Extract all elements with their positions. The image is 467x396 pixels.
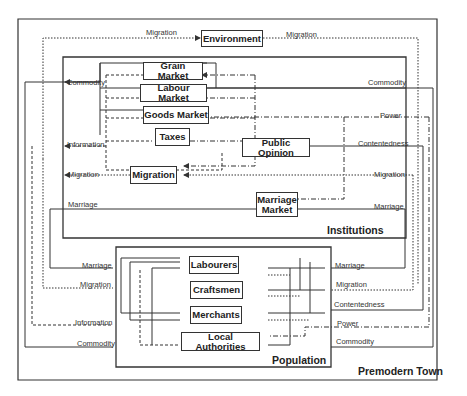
node-local-authorities[interactable]: Local Authorities bbox=[181, 332, 260, 351]
label-pop-right-commodity: Commodity bbox=[336, 338, 374, 346]
label-inst-left-migration: Migration bbox=[68, 171, 99, 179]
node-grain-market[interactable]: Grain Market bbox=[143, 62, 203, 80]
node-marriage-market[interactable]: Marriage Market bbox=[256, 192, 298, 217]
node-migration[interactable]: Migration bbox=[130, 166, 177, 184]
label-pop-left-migration: Migration bbox=[80, 281, 111, 289]
node-craftsmen[interactable]: Craftsmen bbox=[190, 281, 243, 299]
label-inst-left-marriage: Marriage bbox=[68, 201, 98, 209]
label-inst-right-power: Power bbox=[380, 112, 401, 120]
node-labour-market[interactable]: Labour Market bbox=[140, 84, 207, 102]
label-pop-left-marriage: Marriage bbox=[82, 262, 112, 270]
institutions-title: Institutions bbox=[327, 224, 384, 236]
label-inst-left-information: Information bbox=[67, 141, 105, 149]
label-pop-left-information: Information bbox=[75, 319, 113, 327]
label-env-out-migration: Migration bbox=[286, 31, 317, 39]
label-pop-right-contentedness: Contentedness bbox=[334, 301, 384, 309]
label-inst-right-commodity: Commodity bbox=[368, 79, 406, 87]
node-merchants[interactable]: Merchants bbox=[190, 306, 242, 324]
label-pop-right-marriage: Marriage bbox=[335, 262, 365, 270]
label-pop-right-power: Power bbox=[337, 320, 358, 328]
label-env-in-migration: Migration bbox=[146, 29, 177, 37]
node-environment[interactable]: Environment bbox=[201, 30, 263, 47]
label-pop-left-commodity: Commodity bbox=[77, 340, 115, 348]
node-taxes[interactable]: Taxes bbox=[155, 128, 190, 146]
label-pop-right-migration: Migration bbox=[336, 281, 367, 289]
label-inst-left-commodity: Commodity bbox=[67, 79, 105, 87]
label-inst-right-marriage: Marriage bbox=[374, 203, 404, 211]
premodern-town-title: Premodern Town bbox=[358, 365, 443, 377]
label-inst-right-migration: Migration bbox=[374, 171, 405, 179]
population-title: Population bbox=[272, 354, 326, 366]
node-goods-market[interactable]: Goods Market bbox=[143, 106, 209, 124]
node-labourers[interactable]: Labourers bbox=[189, 256, 239, 274]
label-inst-right-contentedness: Contentedness bbox=[358, 140, 408, 148]
node-public-opinion[interactable]: Public Opinion bbox=[242, 138, 310, 157]
